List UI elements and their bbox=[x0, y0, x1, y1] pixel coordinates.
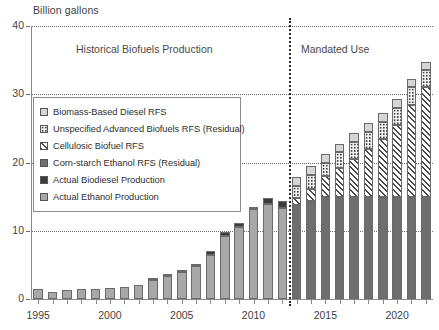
y-tick-mark-40 bbox=[26, 26, 30, 27]
segment-unspecified-advanced-rfs-2022 bbox=[421, 70, 431, 87]
gridline-40 bbox=[31, 26, 433, 27]
segment-cellulosic-rfs-2014 bbox=[306, 189, 316, 201]
segment-actual-ethanol-1998 bbox=[77, 289, 87, 299]
bar-2017 bbox=[349, 133, 359, 299]
actual-ethanol-swatch bbox=[40, 193, 48, 201]
x-tick-mark-2008 bbox=[225, 299, 226, 304]
segment-biomass-based-diesel-rfs-2013 bbox=[292, 177, 302, 186]
segment-actual-ethanol-2004 bbox=[163, 276, 173, 299]
x-tick-mark-2022 bbox=[426, 299, 427, 304]
bar-2004 bbox=[163, 276, 173, 299]
bar-1996 bbox=[48, 292, 58, 300]
cellulosic-swatch bbox=[40, 142, 48, 150]
chart-legend: Biomass-Based Diesel RFSUnspecified Adva… bbox=[33, 97, 241, 212]
segment-unspecified-advanced-rfs-2013 bbox=[292, 186, 302, 198]
x-tick-mark-2003 bbox=[153, 299, 154, 304]
x-tick-mark-2000 bbox=[110, 299, 111, 304]
segment-cellulosic-rfs-2020 bbox=[392, 125, 402, 197]
bar-1995 bbox=[33, 289, 43, 299]
segment-actual-ethanol-2011 bbox=[263, 204, 273, 299]
segment-actual-biodiesel-2006 bbox=[191, 264, 201, 266]
segment-cellulosic-rfs-2017 bbox=[349, 159, 359, 197]
segment-corn-starch-rfs-2018 bbox=[364, 197, 374, 299]
segment-actual-ethanol-1997 bbox=[62, 290, 72, 299]
bar-2006 bbox=[191, 264, 201, 299]
bar-2008 bbox=[220, 232, 230, 299]
x-tick-mark-2011 bbox=[268, 299, 269, 304]
segment-actual-ethanol-1995 bbox=[33, 289, 43, 299]
legend-label-2: Cellulosic Biofuel RFS bbox=[53, 141, 144, 151]
x-tick-mark-1996 bbox=[53, 299, 54, 304]
segment-biomass-based-diesel-rfs-2017 bbox=[349, 133, 359, 142]
x-tick-mark-2017 bbox=[354, 299, 355, 304]
segment-biomass-based-diesel-rfs-2022 bbox=[421, 62, 431, 71]
bar-2020 bbox=[392, 99, 402, 299]
y-tick-mark-30 bbox=[26, 94, 30, 95]
segment-corn-starch-rfs-2017 bbox=[349, 197, 359, 299]
segment-biomass-based-diesel-rfs-2019 bbox=[378, 113, 388, 122]
legend-label-1: Unspecified Advanced Biofuels RFS (Resid… bbox=[53, 124, 245, 134]
x-tick-mark-2006 bbox=[196, 299, 197, 304]
region-label-historical: Historical Biofuels Production bbox=[76, 43, 213, 55]
x-tick-mark-2018 bbox=[368, 299, 369, 304]
x-tick-mark-2010 bbox=[254, 299, 255, 304]
segment-biomass-based-diesel-rfs-2018 bbox=[364, 123, 374, 132]
y-axis-line bbox=[31, 26, 32, 299]
x-tick-mark-2001 bbox=[124, 299, 125, 304]
segment-unspecified-advanced-rfs-2020 bbox=[392, 108, 402, 125]
bar-2001 bbox=[120, 287, 130, 299]
segment-actual-biodiesel-2003 bbox=[148, 278, 158, 280]
bar-2003 bbox=[148, 280, 158, 299]
segment-actual-biodiesel-2005 bbox=[177, 270, 187, 272]
x-tick-mark-2019 bbox=[383, 299, 384, 304]
segment-cellulosic-rfs-2015 bbox=[321, 176, 331, 196]
segment-corn-starch-rfs-2022 bbox=[421, 197, 431, 299]
region-label-mandated: Mandated Use bbox=[301, 43, 369, 55]
legend-item-5[interactable]: Actual Ethanol Production bbox=[40, 188, 234, 205]
segment-cellulosic-rfs-2021 bbox=[407, 105, 417, 197]
bar-2009 bbox=[234, 223, 244, 299]
bar-2015 bbox=[321, 154, 331, 299]
actual-biodiesel-swatch bbox=[40, 176, 48, 184]
segment-actual-ethanol-2005 bbox=[177, 272, 187, 299]
segment-unspecified-advanced-rfs-2021 bbox=[407, 87, 417, 104]
x-tick-mark-2013 bbox=[297, 299, 298, 304]
segment-actual-ethanol-1996 bbox=[48, 292, 58, 300]
corn-starch-swatch bbox=[40, 159, 48, 167]
segment-corn-starch-rfs-2016 bbox=[335, 197, 345, 299]
x-tick-label-2005: 2005 bbox=[170, 309, 193, 321]
segment-actual-ethanol-2010 bbox=[249, 209, 259, 299]
x-tick-mark-1999 bbox=[96, 299, 97, 304]
y-tick-label-10: 10 bbox=[0, 224, 24, 236]
x-tick-mark-2005 bbox=[182, 299, 183, 304]
y-tick-label-40: 40 bbox=[0, 19, 24, 31]
legend-label-3: Corn-starch Ethanol RFS (Residual) bbox=[53, 158, 200, 168]
biomass-diesel-swatch bbox=[40, 108, 48, 116]
segment-actual-biodiesel-2012 bbox=[278, 201, 288, 209]
legend-item-0[interactable]: Biomass-Based Diesel RFS bbox=[40, 103, 234, 120]
segment-actual-ethanol-2009 bbox=[234, 227, 244, 299]
legend-item-4[interactable]: Actual Biodiesel Production bbox=[40, 171, 234, 188]
legend-item-3[interactable]: Corn-starch Ethanol RFS (Residual) bbox=[40, 154, 234, 171]
segment-cellulosic-rfs-2018 bbox=[364, 149, 374, 197]
bar-2011 bbox=[263, 198, 273, 299]
gridline-30 bbox=[31, 94, 433, 95]
y-tick-mark-0 bbox=[26, 299, 30, 300]
segment-actual-biodiesel-2009 bbox=[234, 223, 244, 226]
y-tick-mark-20 bbox=[26, 163, 30, 164]
x-tick-mark-1995 bbox=[38, 299, 39, 304]
legend-item-1[interactable]: Unspecified Advanced Biofuels RFS (Resid… bbox=[40, 120, 234, 137]
segment-actual-ethanol-2007 bbox=[206, 255, 216, 299]
legend-item-2[interactable]: Cellulosic Biofuel RFS bbox=[40, 137, 234, 154]
bar-2016 bbox=[335, 144, 345, 299]
segment-biomass-based-diesel-rfs-2021 bbox=[407, 79, 417, 88]
y-tick-label-0: 0 bbox=[0, 292, 24, 304]
mandate-divider-line bbox=[289, 18, 291, 306]
segment-corn-starch-rfs-2013 bbox=[292, 205, 302, 299]
bar-2000 bbox=[105, 288, 115, 299]
segment-actual-ethanol-2001 bbox=[120, 287, 130, 299]
segment-actual-biodiesel-2004 bbox=[163, 274, 173, 276]
x-tick-mark-1997 bbox=[67, 299, 68, 304]
segment-cellulosic-rfs-2013 bbox=[292, 198, 302, 205]
legend-label-5: Actual Ethanol Production bbox=[53, 192, 159, 202]
